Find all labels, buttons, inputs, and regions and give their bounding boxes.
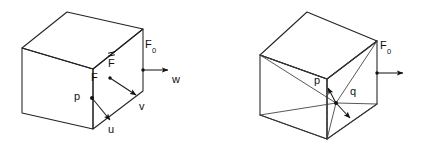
right-F0-label: F0 xyxy=(380,40,391,54)
right-q-label: q xyxy=(350,86,356,97)
right-cube-F0-arrow xyxy=(375,71,403,74)
figure-canvas: F0 w F F p u v xyxy=(0,0,422,145)
right-p-label: p xyxy=(314,75,320,86)
right-cube-triangulation xyxy=(260,41,377,139)
diagram-svg-right xyxy=(0,0,422,145)
